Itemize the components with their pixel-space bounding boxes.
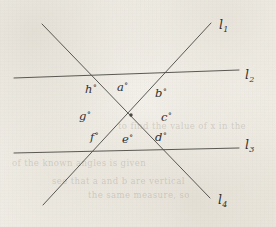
angle-label-e: e° xyxy=(122,132,133,146)
angle-label-h: h° xyxy=(85,82,97,96)
line-l1 xyxy=(43,23,211,205)
line-label-l4: l4 xyxy=(218,192,227,209)
degree-symbol: ° xyxy=(93,83,97,92)
line-l3 xyxy=(14,148,239,153)
line-label-l1: l1 xyxy=(219,17,228,34)
degree-symbol: ° xyxy=(168,111,172,120)
angle-label-a: a° xyxy=(117,80,128,94)
angle-letter-g: g xyxy=(79,109,86,123)
angle-letter-e: e xyxy=(122,132,129,146)
degree-symbol: ° xyxy=(163,131,167,140)
angle-letter-d: d xyxy=(155,130,162,144)
degree-symbol: ° xyxy=(87,110,91,119)
line-subscript: 1 xyxy=(223,25,228,34)
degree-symbol: ° xyxy=(95,131,99,140)
line-label-l3: l3 xyxy=(245,137,254,154)
line-subscript: 4 xyxy=(222,200,227,209)
angle-letter-a: a xyxy=(117,80,124,94)
angle-letter-b: b xyxy=(155,86,162,100)
angle-letter-h: h xyxy=(85,82,92,96)
lines-diagram xyxy=(0,0,276,227)
degree-symbol: ° xyxy=(129,133,133,142)
line-label-l2: l2 xyxy=(245,67,254,84)
line-l2 xyxy=(14,70,239,78)
figure-canvas: to find the value of x in the of the kno… xyxy=(0,0,276,227)
line-l4 xyxy=(42,24,210,198)
line-subscript: 2 xyxy=(249,75,254,84)
angle-letter-f: f xyxy=(90,130,94,144)
angle-label-d: d° xyxy=(155,130,167,144)
line-subscript: 3 xyxy=(249,145,254,154)
degree-symbol: ° xyxy=(124,81,128,90)
angle-label-b: b° xyxy=(155,86,167,100)
angle-label-g: g° xyxy=(79,109,91,123)
angle-label-f: f° xyxy=(90,130,99,144)
angle-label-c: c° xyxy=(161,110,172,124)
intersection-point xyxy=(129,113,132,116)
angle-letter-c: c xyxy=(161,110,167,124)
degree-symbol: ° xyxy=(163,87,167,96)
